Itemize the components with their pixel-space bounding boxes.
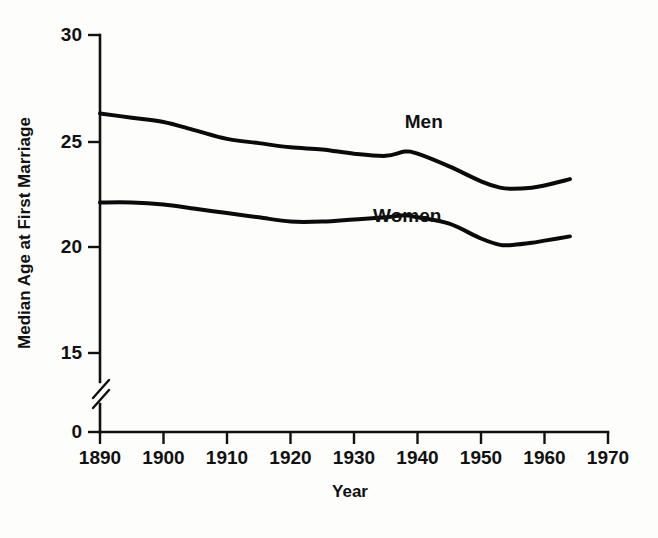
x-tick-label-1890: 1890 (79, 447, 121, 468)
y-tick-label-30: 30 (61, 24, 82, 45)
x-tick-label-1930: 1930 (333, 447, 375, 468)
series-label-women: Women (373, 205, 441, 226)
series-label-men: Men (405, 111, 443, 132)
series-line-men (100, 113, 570, 188)
series-inline-labels: MenWomen (373, 111, 443, 225)
series-line-women (100, 202, 570, 245)
x-tick-label-1900: 1900 (142, 447, 184, 468)
y-tick-label-15: 15 (61, 342, 83, 363)
x-tick-label-1960: 1960 (523, 447, 565, 468)
y-axis-ticks (88, 35, 100, 432)
x-tick-label-1910: 1910 (206, 447, 248, 468)
x-axis-ticks: 189019001910192019301940195019601970 (79, 432, 629, 468)
x-tick-label-1950: 1950 (460, 447, 502, 468)
chart-figure: 30 25 20 15 0 18901900191019201930194019… (0, 0, 658, 538)
y-tick-label-20: 20 (61, 236, 82, 257)
y-axis-title: Median Age at First Marriage (15, 117, 34, 349)
x-tick-label-1970: 1970 (587, 447, 629, 468)
chart-svg: 30 25 20 15 0 18901900191019201930194019… (0, 0, 658, 538)
x-tick-label-1920: 1920 (269, 447, 311, 468)
y-tick-label-0: 0 (71, 421, 82, 442)
x-axis-title: Year (332, 482, 368, 501)
y-tick-label-25: 25 (61, 131, 83, 152)
x-tick-label-1940: 1940 (396, 447, 438, 468)
series-lines (100, 113, 570, 245)
